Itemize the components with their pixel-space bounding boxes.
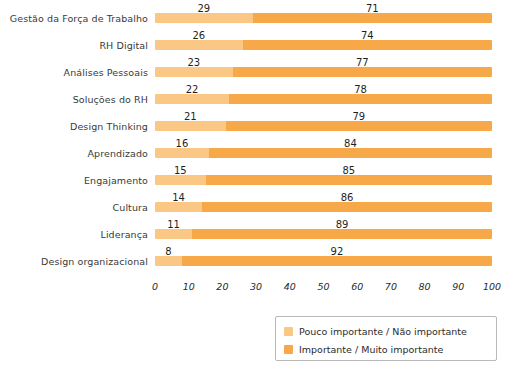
stacked-bar[interactable]	[155, 94, 492, 104]
category-label: Design Thinking	[70, 121, 148, 132]
category-label: Design organizacional	[41, 256, 148, 267]
bar-segment-high	[202, 202, 492, 212]
category-label: RH Digital	[99, 40, 148, 51]
bar-segment-low	[155, 40, 243, 50]
bar-segment-high	[182, 256, 492, 266]
bar-row: RH Digital2674	[155, 35, 492, 62]
bar-row: Análises Pessoais2377	[155, 62, 492, 89]
stacked-bar-chart: Gestão da Força de Trabalho2971RH Digita…	[0, 0, 510, 376]
x-axis-tick-label: 10	[183, 281, 195, 292]
bar-segment-low	[155, 13, 253, 23]
bar-value-high: 78	[354, 84, 367, 95]
stacked-bar[interactable]	[155, 121, 492, 131]
x-axis-tick-label: 20	[216, 281, 228, 292]
category-label: Engajamento	[84, 175, 148, 186]
bar-row: Cultura1486	[155, 197, 492, 224]
bar-value-low: 15	[174, 165, 187, 176]
x-axis-tick-label: 50	[317, 281, 329, 292]
stacked-bar[interactable]	[155, 256, 492, 266]
x-axis-tick-label: 70	[385, 281, 397, 292]
bar-value-low: 23	[187, 57, 200, 68]
bar-value-high: 71	[366, 3, 379, 14]
x-axis-tick-label: 100	[483, 281, 501, 292]
legend-swatch-high-icon	[284, 345, 293, 354]
x-axis-tick-label: 80	[419, 281, 431, 292]
bar-segment-high	[226, 121, 492, 131]
bar-row: Engajamento1585	[155, 170, 492, 197]
bar-segment-low	[155, 256, 182, 266]
bar-segment-low	[155, 148, 209, 158]
bar-value-low: 29	[197, 3, 210, 14]
legend-item-low[interactable]: Pouco importante / Não importante	[284, 322, 488, 340]
stacked-bar[interactable]	[155, 40, 492, 50]
bar-value-high: 89	[336, 219, 349, 230]
category-label: Aprendizado	[87, 148, 148, 159]
category-label: Soluções do RH	[73, 94, 148, 105]
bar-value-low: 14	[172, 192, 185, 203]
stacked-bar[interactable]	[155, 148, 492, 158]
bar-value-low: 21	[184, 111, 197, 122]
bar-segment-low	[155, 175, 206, 185]
chart-legend: Pouco importante / Não importante Import…	[275, 316, 497, 361]
bar-segment-high	[253, 13, 492, 23]
bar-value-low: 26	[192, 30, 205, 41]
stacked-bar[interactable]	[155, 13, 492, 23]
bar-segment-high	[243, 40, 492, 50]
stacked-bar[interactable]	[155, 229, 492, 239]
x-axis-tick-label: 0	[152, 281, 158, 292]
x-axis-tick-label: 60	[351, 281, 363, 292]
bar-row: Design organizacional892	[155, 251, 492, 278]
bar-value-low: 16	[176, 138, 189, 149]
bar-row: Soluções do RH2278	[155, 89, 492, 116]
legend-label-high: Importante / Muito importante	[299, 344, 443, 355]
bar-row: Aprendizado1684	[155, 143, 492, 170]
category-label: Cultura	[113, 202, 148, 213]
x-axis: 0102030405060708090100	[155, 281, 492, 297]
bar-row: Design Thinking2179	[155, 116, 492, 143]
stacked-bar[interactable]	[155, 67, 492, 77]
x-axis-tick-label: 40	[284, 281, 296, 292]
bar-value-high: 84	[344, 138, 357, 149]
stacked-bar[interactable]	[155, 202, 492, 212]
bar-value-high: 79	[353, 111, 366, 122]
bar-value-high: 77	[356, 57, 369, 68]
x-axis-tick-label: 30	[250, 281, 262, 292]
bar-segment-high	[206, 175, 492, 185]
bar-value-low: 22	[186, 84, 199, 95]
bar-segment-low	[155, 94, 229, 104]
legend-label-low: Pouco importante / Não importante	[299, 326, 467, 337]
category-label: Liderança	[100, 229, 148, 240]
category-label: Análises Pessoais	[64, 67, 148, 78]
bar-value-low: 8	[165, 246, 171, 257]
bar-row: Gestão da Força de Trabalho2971	[155, 8, 492, 35]
bar-segment-low	[155, 202, 202, 212]
category-label: Gestão da Força de Trabalho	[10, 13, 148, 24]
bar-segment-low	[155, 229, 192, 239]
bar-row: Liderança1189	[155, 224, 492, 251]
bar-segment-high	[229, 94, 492, 104]
bar-segment-low	[155, 67, 233, 77]
bar-value-high: 74	[361, 30, 374, 41]
bar-segment-low	[155, 121, 226, 131]
legend-item-high[interactable]: Importante / Muito importante	[284, 340, 488, 358]
bar-segment-high	[233, 67, 492, 77]
legend-swatch-low-icon	[284, 327, 293, 336]
bar-value-high: 85	[342, 165, 355, 176]
stacked-bar[interactable]	[155, 175, 492, 185]
bar-value-high: 86	[341, 192, 354, 203]
bar-segment-high	[192, 229, 492, 239]
bar-value-low: 11	[167, 219, 180, 230]
x-axis-tick-label: 90	[452, 281, 464, 292]
plot-area: Gestão da Força de Trabalho2971RH Digita…	[155, 8, 492, 276]
bar-value-high: 92	[331, 246, 344, 257]
bar-segment-high	[209, 148, 492, 158]
